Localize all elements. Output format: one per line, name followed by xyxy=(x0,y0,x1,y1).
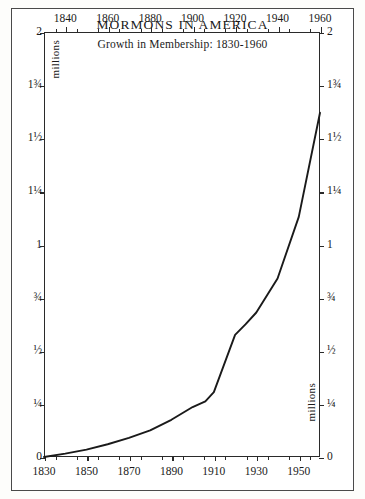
data-series-line xyxy=(44,113,320,457)
data-line-svg xyxy=(0,0,365,499)
chart-figure: MORMONS IN AMERICA Growth in Membership:… xyxy=(0,0,365,499)
